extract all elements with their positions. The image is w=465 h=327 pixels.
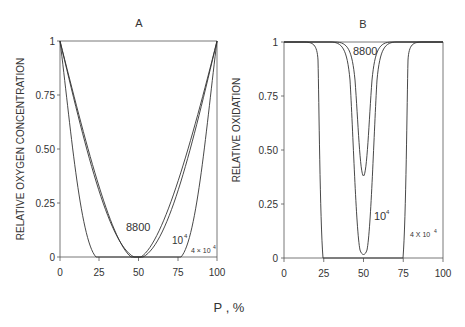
panel-b-ytick-0.25: 0.25 — [259, 199, 279, 210]
panel-b-curve-8800 — [284, 42, 443, 176]
panel-b: B 1 0.75 0.50 0.25 0 0 25 50 75 — [231, 18, 452, 279]
panel-a-title: A — [135, 17, 143, 29]
panel-b-xtick-100: 100 — [435, 268, 452, 279]
panel-a-label-1e4: 10 — [172, 235, 184, 246]
panel-a-ytick-1: 1 — [49, 36, 55, 47]
figure: A 1 0.75 0.50 0.25 0 0 25 50 75 — [0, 0, 465, 327]
panel-a-label-4e4: 4 × 10 — [191, 247, 211, 254]
panel-a-ytick-0: 0 — [49, 252, 55, 263]
panel-a-ytick-0.25: 0.25 — [36, 198, 56, 209]
panel-a-xtick-100: 100 — [209, 267, 226, 278]
panel-a-xtick-75: 75 — [172, 267, 184, 278]
panel-b-label-4e4-exponent: 4 — [434, 228, 437, 234]
panel-b-x-ticks — [284, 258, 443, 262]
panel-b-ytick-1: 1 — [272, 37, 278, 48]
panel-b-title: B — [359, 18, 366, 30]
shared-x-label: P , % — [214, 300, 245, 315]
panel-b-curve-4e4 — [284, 42, 443, 258]
panel-a-label-1e4-exponent: 4 — [184, 233, 188, 239]
panel-b-label-8800: 8800 — [353, 45, 377, 57]
panel-b-xtick-0: 0 — [281, 268, 287, 279]
panel-a-x-ticks — [60, 257, 217, 261]
panel-b-ytick-0.75: 0.75 — [259, 91, 279, 102]
panel-a-label-8800: 8800 — [126, 221, 150, 233]
panel-b-curve-1e4 — [284, 42, 443, 255]
panel-a-y-label: RELATIVE OXYGEN CONCENTRATION — [15, 58, 26, 240]
panel-a-ytick-0.50: 0.50 — [36, 144, 56, 155]
panel-a-ytick-0.75: 0.75 — [36, 90, 56, 101]
panel-b-ytick-0: 0 — [272, 253, 278, 264]
panel-b-xtick-75: 75 — [398, 268, 410, 279]
panel-b-label-4e4: 4 X 10 — [410, 231, 430, 238]
panel-b-label-1e4-exponent: 4 — [386, 209, 390, 215]
panel-b-y-ticks — [281, 42, 284, 258]
panel-b-label-1e4: 10 — [374, 210, 386, 222]
panel-a-label-4e4-exponent: 4 — [213, 244, 216, 250]
panel-a-xtick-25: 25 — [93, 267, 105, 278]
panel-a: A 1 0.75 0.50 0.25 0 0 25 50 75 — [15, 17, 226, 278]
panel-a-xtick-50: 50 — [133, 267, 145, 278]
panel-b-xtick-25: 25 — [318, 268, 330, 279]
panel-b-xtick-50: 50 — [358, 268, 370, 279]
panel-b-ytick-0.50: 0.50 — [259, 145, 279, 156]
panel-a-xtick-0: 0 — [57, 267, 63, 278]
panel-a-y-ticks — [57, 41, 60, 257]
panel-b-y-label: RELATIVE OXIDATION — [231, 78, 242, 183]
